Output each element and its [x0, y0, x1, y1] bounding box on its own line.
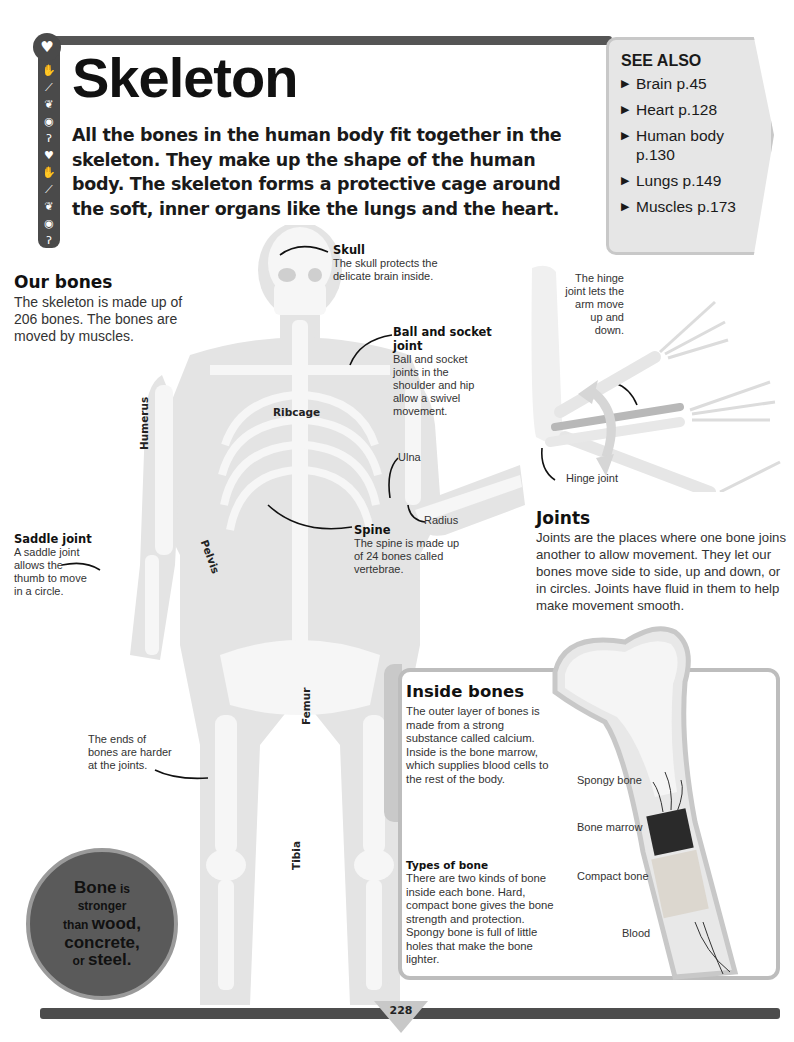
- bone-marrow-label: Bone marrow: [577, 821, 642, 834]
- skull-body: The skull protects the delicate brain in…: [333, 257, 463, 283]
- compact-bone-label: Compact bone: [577, 870, 649, 883]
- fact-word: or: [73, 954, 88, 968]
- hinge-caption: The hinge joint lets the arm move up and…: [560, 272, 624, 337]
- types-body: There are two kinds of bone inside each …: [406, 872, 556, 967]
- our-bones-heading: Our bones: [14, 272, 194, 292]
- ball-socket-label: Ball and socket joint Ball and socket jo…: [393, 325, 493, 418]
- page-number: 228: [374, 1004, 428, 1017]
- fact-word: is: [117, 882, 130, 896]
- inside-bones-text: Inside bones The outer layer of bones is…: [406, 682, 556, 786]
- types-of-bone-text: Types of bone There are two kinds of bon…: [406, 858, 556, 967]
- our-bones-body: The skeleton is made up of 206 bones. Th…: [14, 294, 194, 345]
- ball-socket-heading: Ball and socket joint: [393, 325, 493, 353]
- saddle-joint-label: Saddle joint A saddle joint allows the t…: [14, 532, 94, 598]
- joints-body: Joints are the places where one bone joi…: [536, 529, 794, 614]
- fact-word: wood,: [92, 914, 141, 933]
- humerus-tag: Humerus: [138, 397, 150, 450]
- fact-word: than: [63, 918, 92, 932]
- saddle-heading: Saddle joint: [14, 532, 94, 546]
- skull-heading: Skull: [333, 243, 463, 257]
- spine-heading: Spine: [354, 523, 464, 537]
- hinge-joint-label: Hinge joint: [566, 472, 618, 485]
- inside-bones-body: The outer layer of bones is made from a …: [406, 705, 556, 786]
- ulna-label: Ulna: [398, 451, 421, 464]
- spine-label: Spine The spine is made up of 24 bones c…: [354, 523, 464, 576]
- spine-body: The spine is made up of 24 bones called …: [354, 537, 464, 576]
- our-bones-section: Our bones The skeleton is made up of 206…: [14, 272, 194, 345]
- types-heading: Types of bone: [406, 858, 556, 872]
- fact-word: concrete,: [64, 934, 140, 951]
- joints-section: Joints Joints are the places where one b…: [536, 508, 794, 614]
- joints-heading: Joints: [536, 508, 794, 528]
- saddle-body: A saddle joint allows the thumb to move …: [14, 546, 94, 598]
- bone-ends-label: The ends of bones are harder at the join…: [88, 733, 178, 772]
- blood-label: Blood: [622, 927, 650, 940]
- ball-socket-body: Ball and socket joints in the shoulder a…: [393, 353, 493, 418]
- inside-bones-heading: Inside bones: [406, 682, 556, 701]
- fact-word: Bone: [74, 878, 117, 897]
- fact-word: steel.: [88, 950, 131, 969]
- skull-label: Skull The skull protects the delicate br…: [333, 243, 463, 283]
- bone-cross-section: [545, 622, 785, 982]
- tibia-tag: Tibia: [290, 841, 302, 870]
- femur-tag: Femur: [300, 688, 312, 725]
- spongy-bone-label: Spongy bone: [577, 774, 642, 787]
- hinge-joint-illustration: [510, 262, 794, 492]
- ribcage-tag: Ribcage: [273, 406, 320, 418]
- fact-bubble: Bone is stronger than wood, concrete, or…: [26, 848, 178, 1000]
- fact-word: stronger: [78, 898, 127, 915]
